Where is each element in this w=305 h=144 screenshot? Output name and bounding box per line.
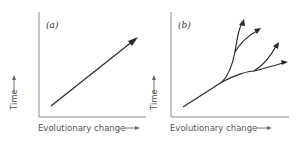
panel-b-branch-4 (254, 63, 283, 71)
panel-b-branch-4-arrowhead-icon (281, 60, 288, 65)
panel-b-label: (b) (178, 20, 191, 30)
panel-b-y-arrowhead-icon (152, 75, 156, 80)
panel-a-y-arrowhead-icon (12, 75, 16, 80)
panel-b-x-axis-label-group: Evolutionary change (170, 123, 272, 133)
panel-a-x-axis-label-group: Evolutionary change (38, 123, 140, 133)
panel-b-branch-3-arrowhead-icon (273, 42, 279, 49)
panel-b-x-arrowhead-icon (267, 126, 272, 130)
panel-b-upper-branch (222, 52, 235, 82)
panel-a-x-axis-label: Evolutionary change (38, 123, 125, 133)
panel-b-branch-1-arrowhead-icon (239, 19, 245, 26)
panel-a-x-arrowhead-icon (135, 126, 140, 130)
panel-b-branch-3 (254, 46, 276, 71)
panel-a-lineage-line (51, 41, 133, 106)
panel-a-label: (a) (46, 20, 59, 30)
panel-b: (b) Time Evolutionary change (149, 12, 289, 133)
panel-b-y-axis-label-group: Time (149, 75, 159, 111)
panel-b-x-axis-label: Evolutionary change (170, 123, 257, 133)
evolution-diagram: (a) Time Evolutionary change (b) (0, 0, 305, 144)
panel-a-arrowhead-icon (128, 37, 138, 46)
panel-a-y-axis-label-group: Time (9, 75, 19, 111)
panel-b-trunk-line (183, 82, 222, 107)
panel-b-branch-2-arrowhead-icon (254, 28, 261, 34)
panel-a: (a) Time Evolutionary change (9, 12, 146, 133)
